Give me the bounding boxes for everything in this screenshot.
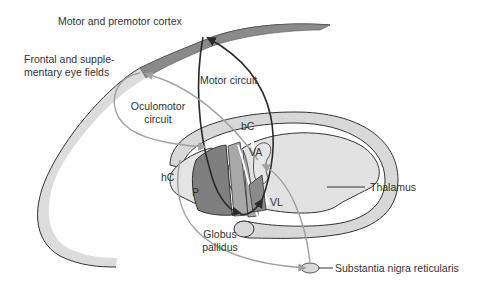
label-oculomotor-line2: circuit [128, 113, 188, 126]
label-thalamus: Thalamus [370, 181, 416, 194]
label-putamen: P [192, 186, 199, 199]
label-eye-fields-line2: mentary eye fields [24, 66, 109, 79]
label-globus-line2: pallidus [195, 241, 245, 254]
eye-fields-cortex-band [38, 68, 146, 267]
label-substantia-nigra: Substantia nigra reticularis [335, 262, 459, 275]
label-va: VA [249, 146, 262, 159]
label-vl: VL [270, 196, 283, 209]
label-body-of-caudate: bC [241, 120, 254, 133]
label-oculomotor-line1: Oculomotor [128, 100, 188, 113]
label-motor-premotor-cortex: Motor and premotor cortex [58, 15, 182, 28]
basal-ganglia-diagram [0, 0, 495, 295]
label-motor-circuit: Motor circuit [200, 74, 257, 87]
label-head-of-caudate: hC [161, 171, 174, 184]
motor-cortex-band [140, 24, 330, 78]
label-globus-line1: Globus [195, 228, 245, 241]
label-eye-fields-line1: Frontal and supple- [24, 53, 114, 66]
